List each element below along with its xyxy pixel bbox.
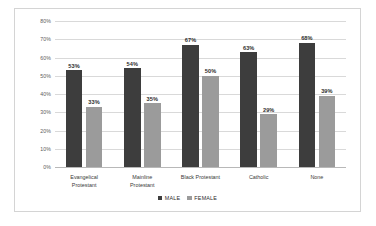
category-label-line: Black Protestant (181, 173, 220, 181)
y-axis-tick-label: 50% (40, 73, 51, 79)
y-axis-tick-label: 30% (40, 109, 51, 115)
chart-container: 0%10%20%30%40%50%60%70%80% 53%33%54%35%6… (14, 8, 361, 212)
bar-male-0[interactable] (66, 70, 83, 167)
x-axis-category-label: MainlineProtestant (130, 173, 155, 190)
legend-label: MALE (165, 195, 180, 201)
category-label-line: Catholic (249, 173, 268, 181)
x-axis-category-label: Black Protestant (181, 173, 220, 181)
bar-value-label: 53% (68, 63, 80, 69)
bar-male-3[interactable] (240, 52, 257, 167)
y-axis-tick-label: 10% (40, 146, 51, 152)
y-axis-tick-label: 20% (40, 128, 51, 134)
legend-swatch-icon (158, 196, 163, 201)
bar-value-label: 35% (147, 96, 159, 102)
x-axis-category-label: EvangelicalProtestant (70, 173, 98, 190)
bar-value-label: 54% (127, 61, 139, 67)
bar-value-label: 39% (321, 88, 333, 94)
category-label-line: Protestant (70, 181, 98, 189)
bar-female-2[interactable] (202, 76, 219, 167)
legend-item-female[interactable]: FEMALE (187, 195, 217, 201)
gridline (55, 21, 346, 22)
bar-female-1[interactable] (144, 103, 161, 167)
y-axis-tick-label: 70% (40, 36, 51, 42)
legend-swatch-icon (187, 196, 192, 201)
chart-legend: MALEFEMALE (15, 195, 360, 201)
y-axis-tick-label: 40% (40, 91, 51, 97)
category-label-line: Evangelical (70, 173, 98, 181)
bar-value-label: 67% (185, 37, 197, 43)
x-axis-category-label: None (310, 173, 323, 181)
bar-value-label: 29% (263, 107, 275, 113)
bar-male-4[interactable] (299, 43, 316, 167)
plot-area: 0%10%20%30%40%50%60%70%80% 53%33%54%35%6… (55, 21, 346, 167)
bar-male-1[interactable] (124, 68, 141, 167)
bar-female-3[interactable] (260, 114, 277, 167)
legend-label: FEMALE (194, 195, 217, 201)
category-label-line: None (310, 173, 323, 181)
y-axis-tick-label: 60% (40, 55, 51, 61)
y-axis-tick-label: 80% (40, 18, 51, 24)
x-axis-line (55, 167, 346, 168)
bar-value-label: 63% (243, 45, 255, 51)
bar-value-label: 33% (88, 99, 100, 105)
legend-item-male[interactable]: MALE (158, 195, 180, 201)
x-axis-category-label: Catholic (249, 173, 268, 181)
bar-female-4[interactable] (319, 96, 336, 167)
y-axis-tick-label: 0% (43, 164, 51, 170)
category-label-line: Mainline (130, 173, 155, 181)
bar-value-label: 50% (205, 68, 217, 74)
bar-female-0[interactable] (86, 107, 103, 167)
category-label-line: Protestant (130, 181, 155, 189)
bar-value-label: 68% (301, 35, 313, 41)
bar-male-2[interactable] (182, 45, 199, 167)
